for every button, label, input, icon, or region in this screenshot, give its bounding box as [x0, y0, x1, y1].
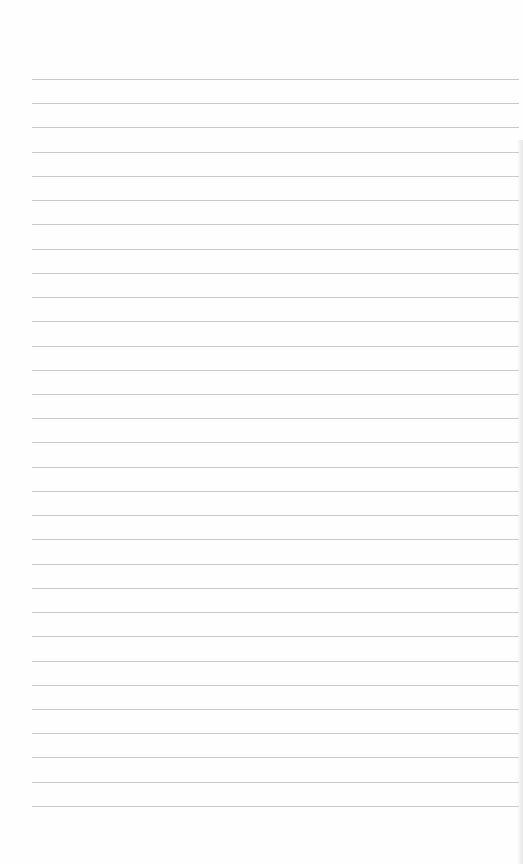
ruled-line: [32, 321, 519, 322]
ruled-line: [32, 127, 519, 128]
ruled-line: [32, 103, 519, 104]
ruled-line: [32, 394, 519, 395]
ruled-line: [32, 539, 519, 540]
ruled-line: [32, 757, 519, 758]
ruled-line: [32, 418, 519, 419]
ruled-line: [32, 491, 519, 492]
ruled-line: [32, 442, 519, 443]
ruled-line: [32, 636, 519, 637]
ruled-line: [32, 782, 519, 783]
ruled-line: [32, 176, 519, 177]
ruled-line: [32, 152, 519, 153]
page-edge-shadow: [517, 140, 523, 864]
ruled-line: [32, 685, 519, 686]
ruled-line: [32, 588, 519, 589]
ruled-line: [32, 249, 519, 250]
ruled-line: [32, 224, 519, 225]
ruled-line: [32, 467, 519, 468]
ruled-line: [32, 370, 519, 371]
ruled-line: [32, 297, 519, 298]
ruled-line: [32, 515, 519, 516]
ruled-line: [32, 564, 519, 565]
ruled-line: [32, 709, 519, 710]
ruled-line: [32, 612, 519, 613]
ruled-line: [32, 79, 519, 80]
ruled-line: [32, 733, 519, 734]
ruled-line: [32, 806, 519, 807]
ruled-line: [32, 200, 519, 201]
ruled-line: [32, 661, 519, 662]
ruled-line: [32, 346, 519, 347]
lined-paper-page: [0, 0, 523, 864]
ruled-line: [32, 273, 519, 274]
